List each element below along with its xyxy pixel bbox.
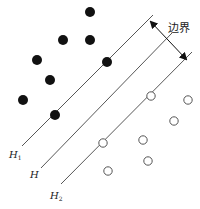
filled-point — [18, 95, 28, 105]
open-point — [99, 139, 107, 147]
open-point — [147, 92, 155, 100]
open-point — [144, 157, 152, 165]
hyperplane-labels: H1HH2 — [8, 149, 63, 202]
hyperplane-label-h2: H2 — [49, 190, 63, 202]
filled-point — [32, 55, 42, 65]
filled-point — [45, 75, 55, 85]
hyperplane-label-h: H — [29, 169, 39, 180]
margin-label: 边界 — [168, 22, 190, 35]
open-point — [104, 167, 112, 175]
filled-point — [58, 35, 68, 45]
open-point — [170, 117, 178, 125]
svm-margin-diagram: H1HH2 边界 — [0, 0, 200, 209]
open-point — [184, 96, 192, 104]
filled-point — [102, 57, 112, 67]
open-point — [139, 136, 147, 144]
filled-point — [85, 7, 95, 17]
filled-point — [50, 110, 60, 120]
filled-point — [85, 35, 95, 45]
hyperplanes — [22, 15, 192, 184]
negative-class-points — [99, 92, 192, 175]
hyperplane-h1 — [22, 15, 153, 146]
hyperplane-label-h1: H1 — [8, 149, 22, 161]
